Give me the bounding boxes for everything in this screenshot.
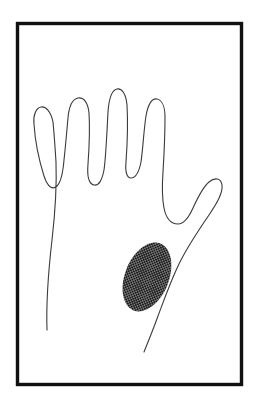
figure-background [0,0,259,406]
hand-diagram-svg [0,0,259,406]
figure-root [0,0,259,406]
